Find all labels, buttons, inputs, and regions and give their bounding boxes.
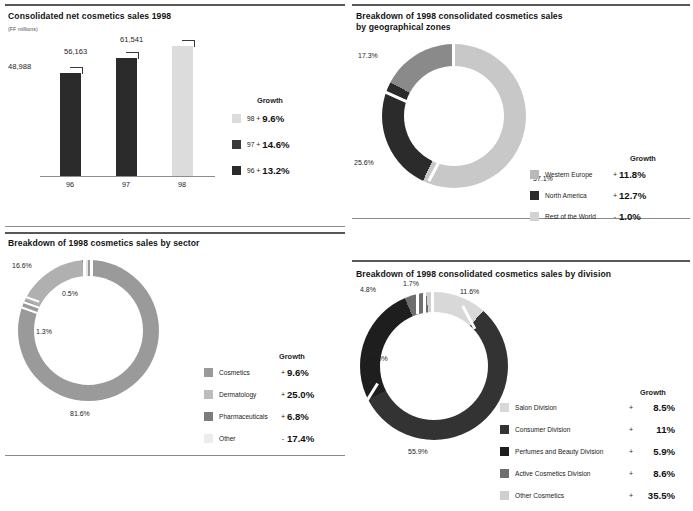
panel-consolidated-sales: Consolidated net cosmetics sales 1998 (F…: [0, 0, 348, 226]
swatch-dermatology: [204, 390, 213, 399]
sector-legend-row-other: Other - 17.4%: [204, 430, 314, 447]
division-separator-left: [362, 383, 379, 408]
division-label-active-cosmetics: 4.8%: [360, 286, 376, 293]
sector-legend-label-other: Other: [219, 435, 279, 442]
division-separator-top-c: [431, 290, 434, 314]
sector-legend-value-cosmetics: 9.6%: [287, 367, 309, 378]
sector-legend-label-cosmetics: Cosmetics: [219, 369, 279, 376]
division-legend-label-consumer: Consumer Division: [515, 426, 627, 433]
bar-legend-value-98: 9.6%: [262, 113, 284, 124]
sector-chart-title: Breakdown of 1998 cosmetics sales by sec…: [8, 238, 200, 249]
bar-chart-legend: Growth 98 + 9.6% 97 + 14.6% 96 + 13.2%: [232, 96, 290, 179]
bar-legend-row-96: 96 + 13.2%: [232, 162, 290, 179]
panel-division: Breakdown of 1998 consolidated cosmetics…: [348, 260, 693, 511]
bar-legend-year-98: 98: [247, 115, 254, 122]
bar-value-97: 56,163: [64, 47, 87, 56]
zones-donut: [382, 44, 526, 188]
division-donut: [360, 292, 508, 440]
zones-legend-value-western-europe: 11.8%: [619, 169, 646, 180]
bar-value-96: 48,988: [8, 62, 31, 71]
bar-legend-value-97: 14.6%: [262, 139, 289, 150]
sector-legend-row-dermatology: Dermatology + 25.0%: [204, 386, 314, 403]
division-label-consumer: 55.9%: [408, 448, 428, 455]
zones-legend-sign-rest-of-the-world: -: [611, 213, 619, 220]
bar-legend-year-97: 97: [247, 141, 254, 148]
sector-legend-sign-other: -: [279, 435, 287, 442]
division-legend-row-salon: Salon Division + 8.5%: [500, 399, 675, 416]
leader-98: [182, 40, 195, 47]
zones-legend: Growth Western Europe + 11.8% North Amer…: [530, 154, 646, 225]
zones-legend-sign-north-america: +: [611, 192, 619, 199]
sector-legend-value-dermatology: 25.0%: [287, 389, 314, 400]
sector-legend-growth-header: Growth: [279, 352, 305, 361]
division-legend-row-consumer: Consumer Division + 11%: [500, 421, 675, 438]
bar-chart-title: Consolidated net cosmetics sales 1998: [8, 11, 171, 22]
division-legend-value-other-cosmetics: 35.5%: [635, 490, 675, 501]
swatch-north-america: [530, 191, 539, 200]
sector-legend-value-other: 17.4%: [287, 433, 314, 444]
panel-geographical-zones: Breakdown of 1998 consolidated cosmetics…: [348, 0, 693, 218]
sector-label-other: 0.5%: [62, 290, 78, 297]
sector-legend-row-cosmetics: Cosmetics + 9.6%: [204, 364, 314, 381]
sector-label-cosmetics: 81.6%: [70, 410, 90, 417]
division-legend-sign-salon: +: [627, 404, 635, 411]
swatch-active-cosmetics-division: [500, 469, 509, 478]
bar-legend-sign-98: +: [254, 115, 262, 122]
division-legend-sign-other-cosmetics: +: [627, 492, 635, 499]
bar-legend-year-96: 96: [247, 167, 254, 174]
bar-96: [60, 73, 81, 177]
division-legend-value-perfumes: 5.9%: [635, 446, 675, 457]
division-separator-top-b: [423, 290, 426, 314]
zones-legend-row-north-america: North America + 12.7%: [530, 187, 646, 204]
bar-chart-baseline: [40, 176, 215, 177]
bar-legend-sign-96: +: [254, 167, 262, 174]
swatch-perfumes-and-beauty-division: [500, 447, 509, 456]
bar-legend-sign-97: +: [254, 141, 262, 148]
panel-sector: Breakdown of 1998 cosmetics sales by sec…: [0, 232, 348, 462]
swatch-98: [232, 114, 241, 123]
division-legend-value-consumer: 11%: [635, 424, 675, 435]
sector-label-dermatology: 16.6%: [12, 262, 32, 269]
swatch-96: [232, 166, 241, 175]
division-donut-hole: [380, 312, 488, 420]
division-legend-row-perfumes: Perfumes and Beauty Division + 5.9%: [500, 443, 675, 460]
division-legend-label-perfumes: Perfumes and Beauty Division: [515, 448, 627, 455]
sector-legend-sign-pharmaceuticals: +: [279, 413, 287, 420]
zones-donut-hole: [404, 66, 504, 166]
zones-legend-label-north-america: North America: [545, 192, 611, 199]
zones-chart-title-line1: Breakdown of 1998 consolidated cosmetics…: [356, 11, 563, 22]
zones-label-na: 25.6%: [354, 159, 374, 166]
bar-xlabel-98: 98: [167, 180, 197, 189]
swatch-other: [204, 434, 213, 443]
zones-legend-label-rest-of-the-world: Rest of the World: [545, 213, 611, 220]
bar-xlabel-96: 96: [55, 180, 85, 189]
division-legend: Growth Salon Division + 8.5% Consumer Di…: [500, 388, 675, 504]
zones-legend-value-rest-of-the-world: 1.0%: [619, 211, 641, 222]
swatch-salon-division: [500, 403, 509, 412]
division-legend-value-active-cosmetics: 8.6%: [635, 468, 675, 479]
bar-97: [116, 58, 137, 177]
sector-legend-sign-dermatology: +: [279, 391, 287, 398]
zones-separator-left: [379, 88, 408, 103]
swatch-rest-of-the-world: [530, 212, 539, 221]
division-chart-title: Breakdown of 1998 consolidated cosmetics…: [356, 269, 611, 280]
division-legend-label-active-cosmetics: Active Cosmetics Division: [515, 470, 627, 477]
division-legend-row-active-cosmetics: Active Cosmetics Division + 8.6%: [500, 465, 675, 482]
zones-separator-top: [452, 42, 455, 68]
division-label-salon: 11.6%: [460, 288, 479, 295]
division-legend-sign-consumer: +: [627, 426, 635, 433]
mid-left-rule: [5, 226, 345, 227]
swatch-pharmaceuticals: [204, 412, 213, 421]
sector-legend-label-pharmaceuticals: Pharmaceuticals: [219, 413, 279, 420]
swatch-other-cosmetics: [500, 491, 509, 500]
leader-96: [70, 67, 83, 74]
zones-chart-title-line2: by geographical zones: [356, 22, 451, 33]
bar-value-98: 61,541: [120, 35, 143, 44]
sector-legend-sign-cosmetics: +: [279, 369, 287, 376]
bar-legend-growth-header: Growth: [257, 96, 283, 105]
zones-label-row: 17.3%: [358, 52, 378, 59]
division-legend-growth-header: Growth: [640, 388, 666, 397]
bar-98: [172, 46, 193, 177]
division-separator-top-a: [416, 290, 419, 314]
zones-legend-sign-western-europe: +: [611, 171, 619, 178]
